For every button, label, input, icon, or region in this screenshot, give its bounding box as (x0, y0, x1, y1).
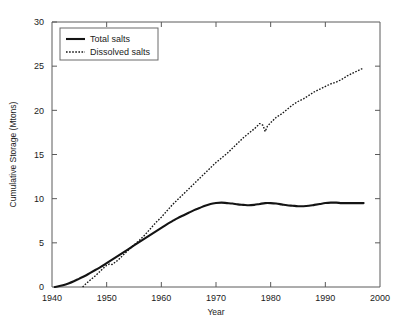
y-axis-label: Cumulative Storage (Mtons) (8, 101, 18, 207)
cumulative-storage-line-chart: 0510152025301940195019601970198019902000… (0, 0, 420, 335)
plot-frame (52, 22, 380, 287)
x-tick-label: 1980 (261, 293, 281, 303)
legend-label-total-salts: Total salts (90, 34, 131, 44)
x-tick-label: 1970 (206, 293, 226, 303)
x-axis-label: Year (207, 307, 224, 317)
legend-label-dissolved-salts: Dissolved salts (90, 47, 151, 57)
series-line-dissolved-salts (83, 68, 364, 287)
x-tick-label: 1960 (151, 293, 171, 303)
y-tick-label: 30 (34, 17, 44, 27)
series-line-total-salts (55, 203, 364, 287)
chart-figure: 0510152025301940195019601970198019902000… (0, 0, 420, 335)
x-tick-label: 1990 (315, 293, 335, 303)
x-tick-label: 2000 (370, 293, 390, 303)
y-tick-label: 10 (34, 194, 44, 204)
x-tick-label: 1940 (42, 293, 62, 303)
y-tick-label: 25 (34, 61, 44, 71)
y-tick-label: 15 (34, 150, 44, 160)
y-tick-label: 20 (34, 106, 44, 116)
y-tick-label: 0 (39, 282, 44, 292)
y-tick-label: 5 (39, 238, 44, 248)
x-tick-label: 1950 (97, 293, 117, 303)
